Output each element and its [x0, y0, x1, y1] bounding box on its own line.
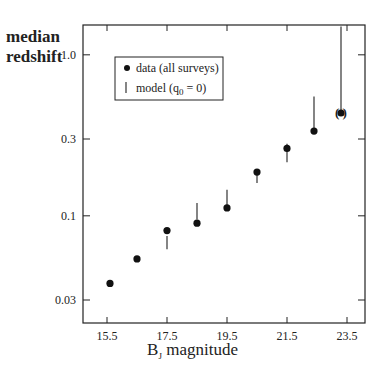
y-tick-label: 0.3	[61, 132, 76, 146]
chart-plot: 15.517.519.521.523.50.030.10.31.0( )data…	[0, 0, 385, 376]
y-tick-label: 0.03	[55, 293, 76, 307]
data-point	[106, 280, 113, 287]
x-axis-title: BJ magnitude	[0, 340, 385, 361]
data-point	[193, 220, 200, 227]
y-tick-label: 1.0	[61, 48, 76, 62]
data-point	[253, 168, 260, 175]
data-point	[223, 204, 230, 211]
data-point	[133, 255, 140, 262]
legend-data-label: data (all surveys)	[136, 61, 219, 75]
x-axis-title-main: B	[147, 340, 158, 359]
data-point	[163, 227, 170, 234]
legend-model-label: model (q0 = 0)	[136, 81, 206, 97]
legend-data-marker	[124, 65, 130, 71]
y-tick-label: 0.1	[61, 209, 76, 223]
data-point	[310, 127, 317, 134]
x-axis-title-rest: magnitude	[162, 340, 238, 359]
uncertain-point-annotation: ( )	[335, 105, 347, 120]
data-point	[283, 145, 290, 152]
